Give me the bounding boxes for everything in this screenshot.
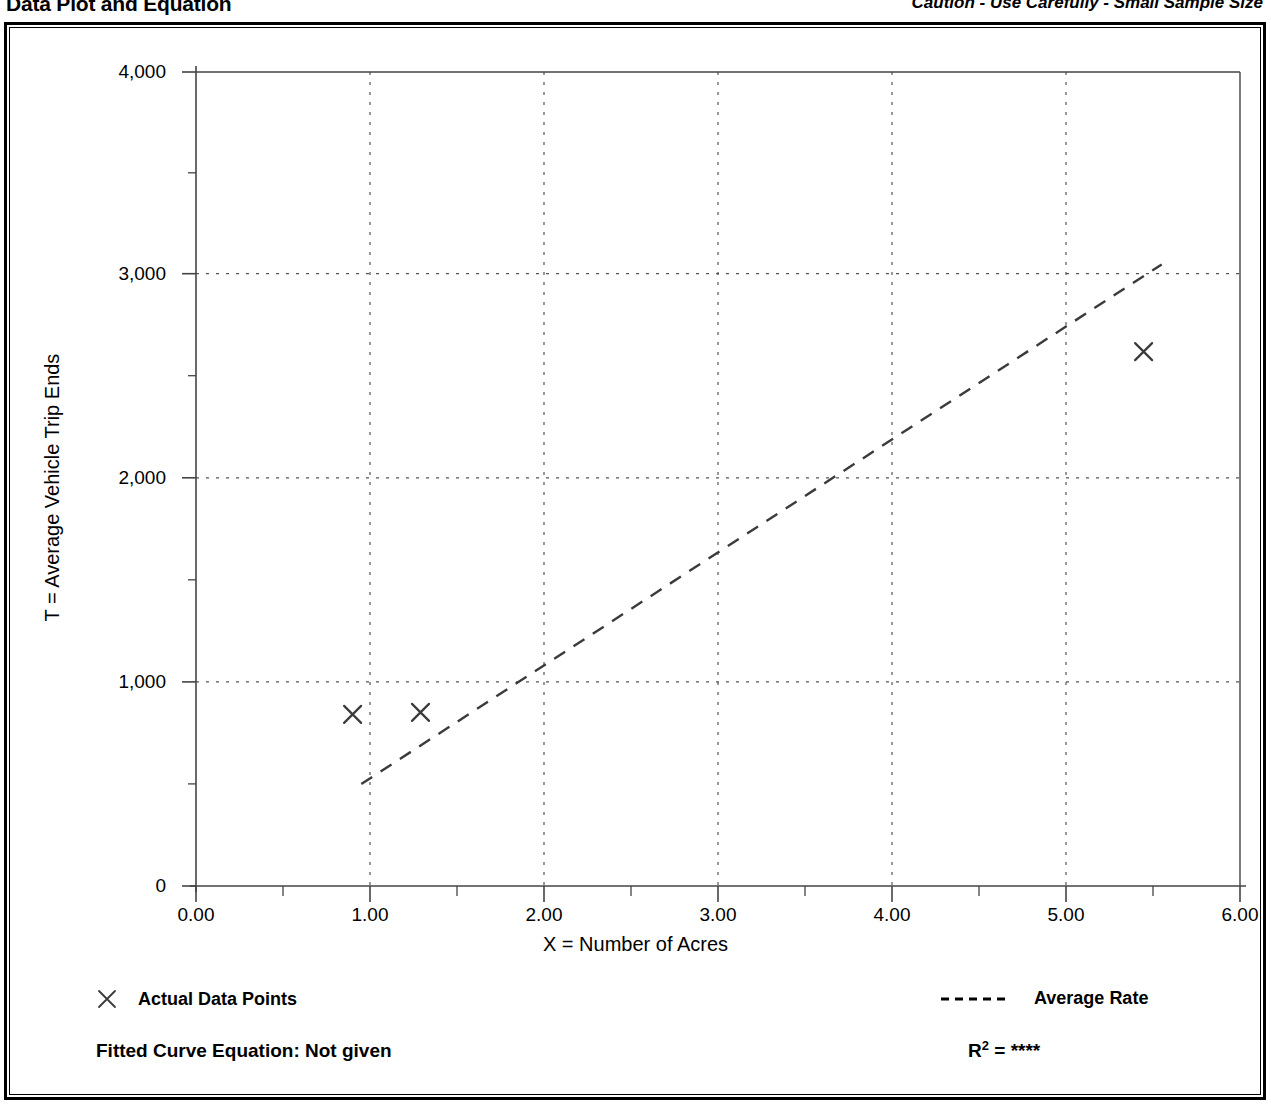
y-tick-label: 4,000 (46, 61, 166, 83)
average-rate-line (361, 264, 1161, 784)
dashed-line-icon (940, 994, 1012, 1004)
r-squared-prefix: R (968, 1040, 982, 1061)
fitted-curve-equation: Fitted Curve Equation: Not given (96, 1040, 392, 1062)
y-major-ticks (182, 72, 196, 886)
r-squared-exponent: 2 (982, 1038, 989, 1053)
x-tick-label: 1.00 (310, 904, 430, 926)
y-tick-label: 0 (46, 875, 166, 897)
x-major-ticks (196, 886, 1240, 902)
legend-label-average-rate: Average Rate (1034, 988, 1148, 1009)
x-tick-label: 6.00 (1180, 904, 1271, 926)
y-tick-label: 1,000 (46, 671, 166, 693)
x-axis-title: X = Number of Acres (0, 933, 1271, 956)
x-tick-label: 2.00 (484, 904, 604, 926)
legend-average-rate: Average Rate (940, 988, 1148, 1009)
r-squared-equals: = (989, 1040, 1011, 1061)
y-axis-title: T = Average Vehicle Trip Ends (41, 288, 64, 688)
legend-label-actual-data-points: Actual Data Points (138, 989, 297, 1010)
chart-page: Data Plot and Equation Caution - Use Car… (0, 0, 1271, 1105)
y-tick-label: 2,000 (46, 467, 166, 489)
x-tick-label: 0.00 (136, 904, 256, 926)
r-squared-stars: **** (1011, 1040, 1041, 1061)
r-squared-value: R2 = **** (968, 1038, 1040, 1062)
x-tick-label: 5.00 (1006, 904, 1126, 926)
x-tick-label: 3.00 (658, 904, 778, 926)
x-tick-label: 4.00 (832, 904, 952, 926)
x-gridlines (370, 72, 1066, 886)
x-marker-icon (96, 988, 118, 1010)
legend-actual-data-points: Actual Data Points (96, 988, 297, 1010)
y-tick-label: 3,000 (46, 263, 166, 285)
